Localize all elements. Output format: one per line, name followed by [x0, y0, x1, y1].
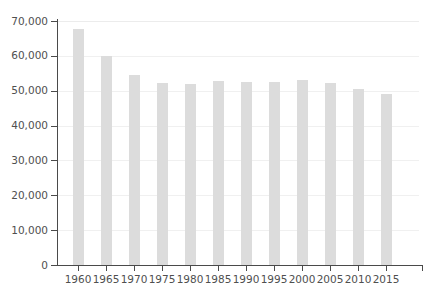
x-tick-2005 — [330, 265, 331, 271]
x-tick-1960 — [78, 265, 79, 271]
x-tick-1970 — [134, 265, 135, 271]
x-axis-line — [57, 265, 423, 266]
y-axis-label-50000: 50,000 — [11, 85, 48, 96]
bar-1965 — [101, 56, 112, 265]
x-axis-label-2010: 2010 — [343, 273, 373, 285]
y-axis-line — [57, 19, 58, 266]
y-tick-10000 — [51, 230, 57, 231]
y-tick-70000 — [51, 21, 57, 22]
x-tick-1980 — [190, 265, 191, 271]
y-axis-label-0: 0 — [41, 260, 48, 271]
bar-1960 — [73, 29, 84, 265]
x-axis-end-tick — [422, 265, 423, 271]
x-tick-1975 — [162, 265, 163, 271]
bar-1990 — [241, 82, 252, 265]
x-axis-label-1970: 1970 — [119, 273, 149, 285]
plot-area — [57, 21, 419, 265]
gridline-70000 — [57, 21, 419, 22]
y-axis-label-20000: 20,000 — [11, 190, 48, 201]
x-tick-1995 — [274, 265, 275, 271]
y-tick-60000 — [51, 56, 57, 57]
y-axis-label-40000: 40,000 — [11, 120, 48, 131]
x-axis-label-2015: 2015 — [371, 273, 401, 285]
bar-1975 — [157, 83, 168, 265]
y-tick-40000 — [51, 126, 57, 127]
x-axis-label-1985: 1985 — [203, 273, 233, 285]
x-tick-1985 — [218, 265, 219, 271]
y-tick-0 — [51, 265, 57, 266]
bar-1970 — [129, 75, 140, 265]
bar-1995 — [269, 82, 280, 265]
x-axis-label-2005: 2005 — [315, 273, 345, 285]
bar-chart: 70,000 60,000 50,000 40,000 30,000 20,00… — [0, 0, 433, 303]
x-axis-label-1975: 1975 — [147, 273, 177, 285]
x-axis-label-1980: 1980 — [175, 273, 205, 285]
x-axis-label-1960: 1960 — [63, 273, 93, 285]
x-tick-1990 — [246, 265, 247, 271]
y-tick-30000 — [51, 160, 57, 161]
bar-2000 — [297, 80, 308, 265]
x-axis-label-1965: 1965 — [91, 273, 121, 285]
x-axis-label-1990: 1990 — [231, 273, 261, 285]
bar-2015 — [381, 94, 392, 265]
bar-2005 — [325, 83, 336, 265]
bar-1985 — [213, 81, 224, 265]
x-axis-label-2000: 2000 — [287, 273, 317, 285]
y-axis-label-30000: 30,000 — [11, 155, 48, 166]
bar-1980 — [185, 84, 196, 265]
bar-2010 — [353, 89, 364, 265]
y-axis-label-70000: 70,000 — [11, 16, 48, 27]
x-tick-2015 — [386, 265, 387, 271]
y-tick-50000 — [51, 91, 57, 92]
y-tick-20000 — [51, 195, 57, 196]
x-tick-2000 — [302, 265, 303, 271]
x-axis-label-1995: 1995 — [259, 273, 289, 285]
x-tick-1965 — [106, 265, 107, 271]
x-tick-2010 — [358, 265, 359, 271]
y-axis-label-10000: 10,000 — [11, 225, 48, 236]
y-axis-label-60000: 60,000 — [11, 50, 48, 61]
